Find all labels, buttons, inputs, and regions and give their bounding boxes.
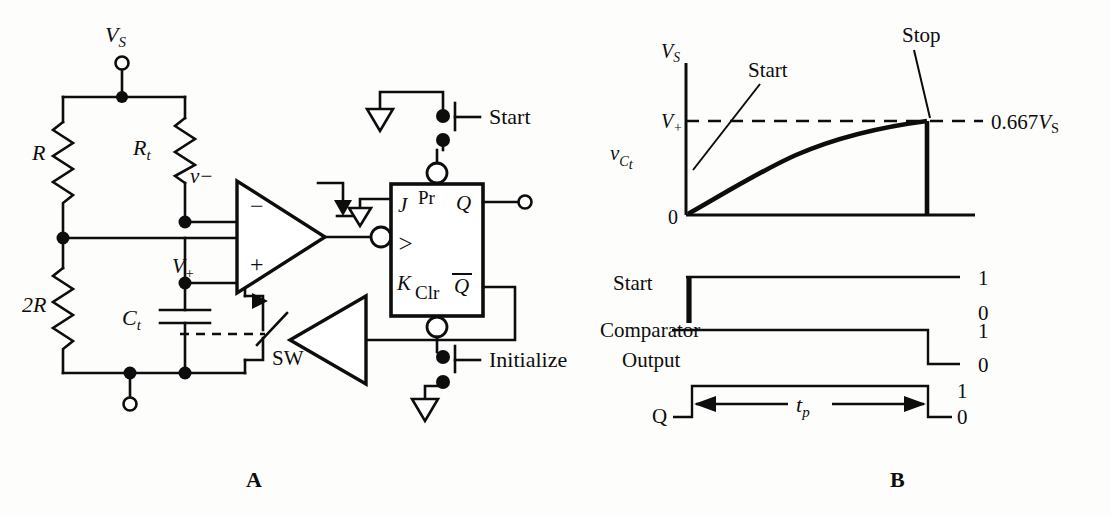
clock-input-bubble — [371, 227, 391, 247]
resistor-R-body — [53, 122, 73, 238]
ff-clock-label: > — [397, 230, 414, 257]
q-waveform-label: Q — [652, 404, 667, 428]
resistor-2R-label: 2R — [22, 292, 47, 317]
panel-a-circuit: VS R Rt v− 2R V+ Ct — [0, 0, 600, 516]
start-button-label: Start — [489, 104, 531, 129]
ff-clear-label: Clr — [415, 282, 440, 303]
initialize-button-contact-upper — [436, 350, 450, 364]
vs-axis-label: VS — [661, 40, 680, 65]
panel-a-label: A — [246, 467, 262, 492]
tp-arrow-right-head — [904, 396, 926, 412]
preset-input-bubble — [427, 163, 447, 183]
ff-preset-label: Pr — [418, 187, 436, 208]
node-divider-mid — [57, 232, 70, 245]
comparator-waveform-label-line2: Output — [622, 348, 681, 372]
vs-label: VS — [105, 22, 126, 50]
comparator-high-level-label: 1 — [978, 319, 989, 343]
vplus-axis-label: V+ — [661, 110, 682, 135]
v-minus-label: v− — [190, 164, 214, 188]
q-high-level-label: 1 — [957, 379, 968, 403]
resistor-R-label: R — [31, 140, 46, 165]
comparator-low-level-label: 0 — [978, 353, 989, 377]
node-bottom-ct — [179, 367, 192, 380]
comparator-minus-sign: − — [250, 193, 264, 219]
resistor-2R-body — [53, 268, 73, 373]
comparator-plus-sign: + — [250, 251, 264, 277]
start-waveform-label: Start — [613, 271, 653, 295]
ground-open-terminal[interactable] — [124, 398, 137, 411]
vs-open-terminal[interactable] — [116, 57, 129, 70]
panel-b-timing: VS V+ 0 vCt 0.667VS Start Stop Start 1 0… — [600, 0, 1111, 516]
figure-root: VS R Rt v− 2R V+ Ct — [0, 0, 1111, 516]
stop-annotation-leader — [914, 50, 930, 118]
ff-k-label: K — [396, 271, 412, 295]
start-high-level-label: 1 — [978, 266, 989, 290]
panel-b-label: B — [890, 467, 905, 492]
initialize-ground-symbol — [412, 399, 438, 421]
start-ground-symbol — [367, 109, 393, 131]
switch-blade — [257, 313, 287, 345]
vct-y-axis-title: vCt — [610, 141, 634, 172]
threshold-label: 0.667VS — [991, 110, 1059, 136]
j-input-ground-wire — [360, 199, 391, 207]
node-vs — [116, 91, 128, 103]
ff-q-label: Q — [456, 191, 471, 215]
q-output-open-terminal[interactable] — [519, 196, 532, 209]
ff-qbar-label: Q — [454, 274, 469, 298]
tp-arrow-left-head — [694, 396, 716, 412]
tp-label: tp — [796, 392, 810, 420]
start-chart-annotation: Start — [748, 58, 788, 82]
capacitor-Ct-label: Ct — [122, 305, 142, 333]
comparator-output-waveform — [672, 330, 960, 364]
q-low-level-label: 0 — [957, 405, 968, 429]
start-annotation-leader — [693, 84, 760, 170]
stop-chart-annotation: Stop — [902, 23, 941, 47]
switch-label: SW — [272, 346, 304, 370]
capacitor-charge-curve — [688, 121, 927, 214]
switch-driver-buffer — [290, 296, 366, 384]
initialize-button-label: Initialize — [489, 347, 567, 372]
zero-axis-label: 0 — [668, 206, 678, 228]
clear-input-bubble — [427, 317, 447, 337]
resistor-Rt-label: Rt — [132, 135, 151, 163]
